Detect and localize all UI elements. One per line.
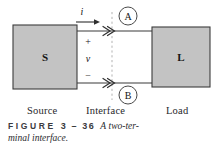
terminal-a-label: A <box>124 11 132 22</box>
section-labels-row: Source Interface Load <box>0 105 220 121</box>
caption-number: 3 – 36 <box>61 121 96 131</box>
two-terminal-interface-diagram: S L i + v − <box>0 0 220 106</box>
current-label: i <box>81 6 84 17</box>
caption-text-line1: two-ter- <box>109 121 139 131</box>
plus-sign-label: + <box>85 36 91 47</box>
section-label-load: Load <box>166 105 188 116</box>
terminal-a: A <box>119 7 137 25</box>
minus-sign-label: − <box>85 70 91 81</box>
terminal-b-label: B <box>125 90 132 101</box>
caption-text-line2: minal interface. <box>8 133 68 143</box>
caption-article: A <box>100 121 106 131</box>
voltage-label: v <box>86 53 91 64</box>
source-block-label: S <box>42 51 48 63</box>
section-label-interface: Interface <box>86 105 125 116</box>
load-block: L <box>152 27 210 87</box>
caption-kicker: FIGURE <box>8 121 56 131</box>
source-block: S <box>13 25 77 89</box>
load-block-label: L <box>177 51 184 63</box>
figure-container: S L i + v − <box>0 0 220 154</box>
current-arrow <box>76 19 100 25</box>
section-label-source: Source <box>27 105 57 116</box>
terminal-b: B <box>119 86 137 104</box>
figure-caption: FIGURE3 – 36A two-ter- minal interface. <box>8 121 220 144</box>
